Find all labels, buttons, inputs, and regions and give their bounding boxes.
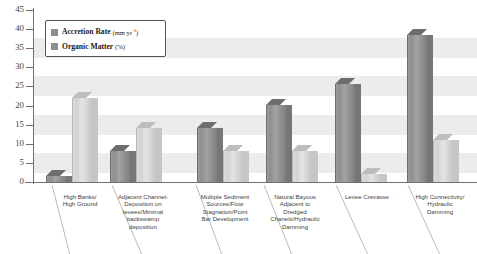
legend-swatch-icon [51, 29, 58, 36]
legend-item-organic: Organic Matter (%) [51, 39, 160, 53]
bar-front [46, 176, 66, 182]
bar-organic-4 [292, 151, 312, 182]
bar-front [335, 84, 355, 182]
bar-front [361, 174, 381, 182]
legend-label-accretion: Accretion Rate [62, 28, 111, 37]
category-label-1: High Banks/ High Ground [52, 193, 108, 208]
bar-side [92, 98, 98, 182]
bar-front [136, 128, 156, 182]
legend-unit-organic: (%) [115, 43, 125, 50]
bar-accretion-2 [110, 151, 130, 182]
bar-front [223, 151, 243, 182]
bar-front [110, 151, 130, 182]
legend: Accretion Rate (mm yr-1) Organic Matter … [45, 20, 166, 57]
category-label-4: Natural Bayous Adjacent to Dredged Chane… [262, 193, 328, 230]
bar-side [381, 174, 387, 182]
bar-side [312, 151, 318, 182]
legend-unit-accretion: (mm yr-1) [112, 29, 138, 36]
category-label-6: High Connectivity/ Hydraulic Damming [406, 193, 474, 215]
bar-front [407, 35, 427, 182]
category-label-3: Multiple Sediment Sources/Flow Stagnatio… [192, 193, 258, 223]
bar-front [433, 140, 453, 182]
bar-side [156, 128, 162, 182]
bar-accretion-6 [407, 35, 427, 182]
bar-organic-2 [136, 128, 156, 182]
bar-front [72, 98, 92, 182]
bar-front [292, 151, 312, 182]
bar-organic-6 [433, 140, 453, 182]
legend-item-accretion: Accretion Rate (mm yr-1) [51, 25, 160, 39]
bar-front [266, 105, 286, 182]
legend-swatch-icon [51, 43, 58, 50]
bar-accretion-5 [335, 84, 355, 182]
category-label-5: Levee Crevasse [336, 193, 398, 200]
bar-organic-5 [361, 174, 381, 182]
legend-label-organic: Organic Matter [62, 42, 113, 51]
bar-front [197, 128, 217, 182]
bar-organic-3 [223, 151, 243, 182]
bar-chart: 45 40 35 30 25 20 15 10 5 0 [0, 0, 477, 254]
bar-accretion-1 [46, 176, 66, 182]
bar-accretion-4 [266, 105, 286, 182]
bar-side [355, 84, 361, 182]
bar-side [453, 140, 459, 182]
bar-organic-1 [72, 98, 92, 182]
category-label-2: Adjacent Channel- Deposition on levees/M… [112, 193, 174, 230]
bar-side [243, 151, 249, 182]
bar-accretion-3 [197, 128, 217, 182]
